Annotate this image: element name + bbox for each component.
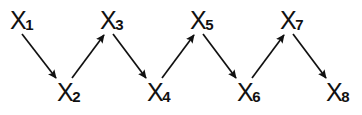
node-x8: X8	[326, 80, 351, 105]
node-x6-variable: X	[237, 78, 253, 106]
node-x8-subscript: 8	[341, 88, 349, 105]
node-x1: X1	[10, 8, 35, 33]
node-x6: X6	[237, 80, 262, 105]
node-x7-variable: X	[280, 6, 296, 34]
node-x4-variable: X	[147, 78, 163, 106]
edge-arrow-x3-to-x4	[113, 34, 146, 78]
node-x6-subscript: 6	[252, 88, 260, 105]
edge-arrow-x1-to-x2	[22, 34, 56, 78]
node-x5: X5	[190, 8, 215, 33]
node-x7-subscript: 7	[295, 16, 303, 33]
node-x3: X3	[100, 8, 125, 33]
node-x7: X7	[280, 8, 305, 33]
diagram-edges-layer	[0, 0, 362, 115]
node-x2-variable: X	[57, 78, 73, 106]
node-x3-variable: X	[100, 6, 116, 34]
node-x8-variable: X	[326, 78, 342, 106]
node-x4-subscript: 4	[162, 88, 170, 105]
edge-arrow-x5-to-x6	[203, 34, 236, 78]
diagram-canvas: X1X2X3X4X5X6X7X8	[0, 0, 362, 115]
node-x1-subscript: 1	[25, 16, 33, 33]
node-x1-variable: X	[10, 6, 26, 34]
edge-arrow-x6-to-x7	[252, 35, 284, 78]
node-x5-variable: X	[190, 6, 206, 34]
edge-arrow-x7-to-x8	[293, 34, 326, 78]
node-x3-subscript: 3	[115, 16, 123, 33]
node-x4: X4	[147, 80, 172, 105]
edge-arrow-x4-to-x5	[162, 35, 194, 78]
node-x5-subscript: 5	[205, 16, 213, 33]
node-x2-subscript: 2	[72, 88, 80, 105]
edge-arrow-x2-to-x3	[72, 35, 104, 78]
node-x2: X2	[57, 80, 82, 105]
